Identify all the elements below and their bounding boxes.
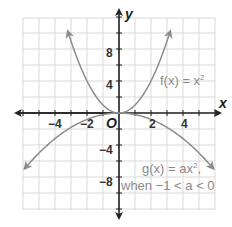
x-axis-label: x [218,95,228,111]
y-tick-label: −4 [99,143,113,157]
f-annotation-text: f(x) = x [160,73,201,88]
f-curve-left [68,31,119,113]
y-axis-label: y [124,6,134,22]
f-annotation-sup: 2 [200,73,205,82]
x-tick-label: 2 [149,117,156,131]
g-annotation-line2: when −1 < a < 0 [120,178,215,193]
g-annotation-line1: g(x) = ax2, [142,161,201,176]
y-tick-label: −8 [99,175,113,189]
y-tick-label: 8 [106,46,113,60]
x-tick-label: 4 [181,117,188,131]
origin-label: O [106,115,117,131]
g-annotation-text: g(x) = ax [142,161,193,176]
parabola-graph: x y O −4 −2 2 4 8 4 −4 −8 f(x) = x2 g(x)… [0,0,232,227]
x-tick-label: −2 [80,117,94,131]
f-annotation: f(x) = x2 [160,73,205,88]
y-tick-label: 4 [106,78,113,92]
g-annotation-comma: , [197,161,201,176]
x-tick-label: −4 [48,117,62,131]
